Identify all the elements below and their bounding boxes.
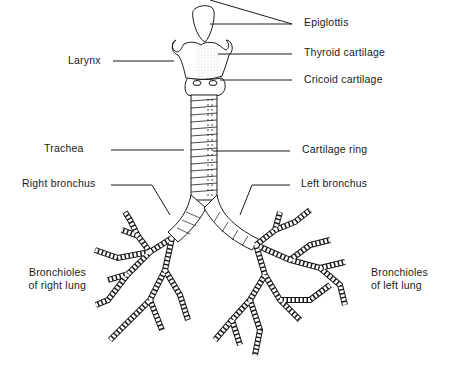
left-bronchus-shape [204, 195, 260, 250]
label-larynx: Larynx [68, 54, 101, 67]
label-bronchioles-left-line2: of left lung [371, 279, 428, 292]
label-bronchioles-right-line2: of right lung [8, 279, 86, 292]
label-epiglottis: Epiglottis [304, 16, 349, 29]
label-trachea: Trachea [44, 142, 84, 155]
label-bronchioles-right-line1: Bronchioles [8, 266, 86, 279]
label-left-bronchus: Left bronchus [301, 177, 367, 190]
leader-left-bronchus [240, 185, 290, 215]
trachea-structure [191, 95, 217, 200]
cricoid-cartilage-shape [185, 78, 225, 97]
label-cricoid-cartilage: Cricoid cartilage [304, 73, 383, 86]
right-bronchus-shape [168, 195, 206, 242]
label-bronchioles-left: Bronchioles of left lung [371, 266, 428, 292]
label-bronchioles-left-line1: Bronchioles [371, 266, 428, 279]
bronchi-structure [168, 195, 260, 250]
label-cartilage-ring: Cartilage ring [302, 143, 367, 156]
leader-epiglottis [210, 0, 292, 24]
larynx-structure [172, 6, 232, 97]
label-right-bronchus: Right bronchus [22, 177, 95, 190]
leader-right-bronchus [111, 185, 170, 215]
label-bronchioles-right: Bronchioles of right lung [8, 266, 86, 292]
label-thyroid-cartilage: Thyroid cartilage [304, 46, 385, 59]
